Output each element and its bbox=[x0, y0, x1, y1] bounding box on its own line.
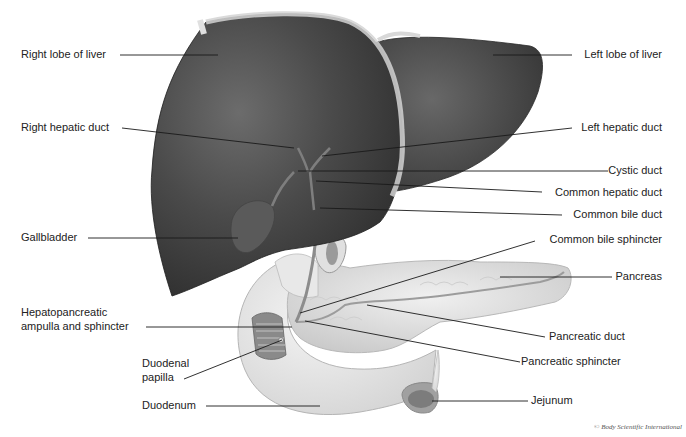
label-common-bile-duct: Common bile duct bbox=[573, 208, 662, 221]
label-left-lobe-of-liver: Left lobe of liver bbox=[584, 48, 662, 61]
label-pancreatic-duct: Pancreatic duct bbox=[549, 330, 625, 343]
label-right-lobe-of-liver: Right lobe of liver bbox=[21, 48, 106, 61]
pancreas-shape bbox=[287, 260, 571, 352]
label-gallbladder: Gallbladder bbox=[21, 231, 77, 244]
label-duodenal-papilla-line2: papilla bbox=[142, 371, 174, 384]
label-left-hepatic-duct: Left hepatic duct bbox=[581, 121, 662, 134]
label-cystic-duct: Cystic duct bbox=[608, 164, 662, 177]
anatomy-diagram: Right lobe of liver Right hepatic duct G… bbox=[0, 0, 686, 437]
label-common-bile-sphincter: Common bile sphincter bbox=[550, 233, 663, 246]
right-lobe-shape bbox=[151, 14, 402, 296]
label-jejunum: Jejunum bbox=[531, 394, 573, 407]
label-duodenal-papilla-line1: Duodenal bbox=[142, 357, 189, 370]
label-pancreas: Pancreas bbox=[616, 270, 662, 283]
label-right-hepatic-duct: Right hepatic duct bbox=[21, 121, 109, 134]
label-duodenum: Duodenum bbox=[142, 399, 196, 412]
label-hepatopancreatic-ampulla-line1: Hepatopancreatic bbox=[21, 306, 107, 319]
label-common-hepatic-duct: Common hepatic duct bbox=[555, 186, 662, 199]
copyright-notice: © Body Scientific International bbox=[594, 423, 682, 431]
label-hepatopancreatic-ampulla-line2: ampulla and sphincter bbox=[21, 320, 129, 333]
label-pancreatic-sphincter: Pancreatic sphincter bbox=[521, 355, 621, 368]
